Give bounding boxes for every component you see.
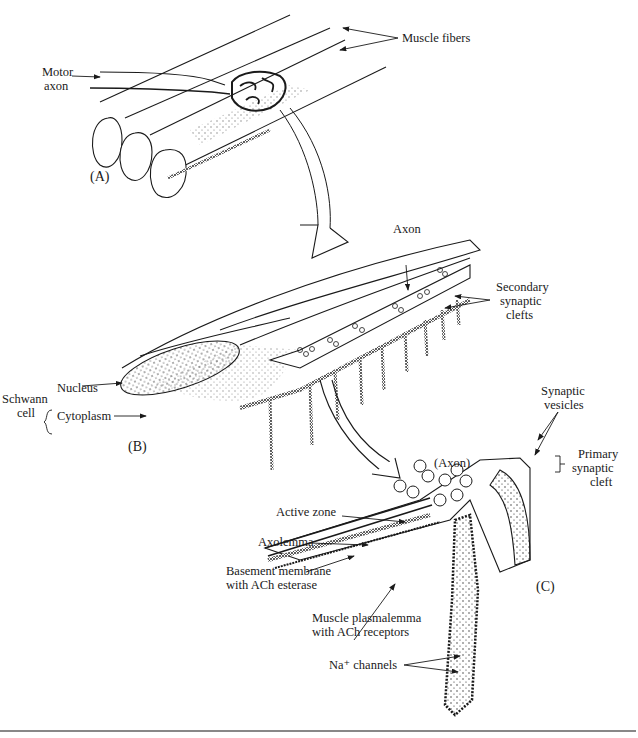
muscle-fibers-label: Muscle fibers [402, 31, 470, 45]
schwann-cell-label-line1: Schwann [2, 392, 48, 406]
secondary-clefts-label-line1: Secondary [496, 280, 549, 294]
muscle-plasmalemma-label-line1: Muscle plasmalemma [312, 611, 421, 625]
endplate-section-drawing [115, 240, 480, 478]
nucleus-label: Nucleus [57, 381, 98, 395]
panel-c-label: (C) [536, 580, 555, 594]
secondary-clefts-label-line3: clefts [506, 308, 533, 322]
cytoplasm-label: Cytoplasm [57, 409, 111, 423]
motor-axon-label-line1: Motor [42, 65, 73, 79]
axolemma-label: Axolemma [258, 535, 314, 549]
basement-membrane-label-line1: Basement membrane [226, 564, 331, 578]
motor-axon-label-line2: axon [44, 79, 68, 93]
caption-divider [0, 730, 636, 732]
axon-label-b: Axon [393, 222, 421, 236]
panel-b-label: (B) [128, 440, 147, 454]
synaptic-vesicles-label-line1: Synaptic [541, 384, 585, 398]
primary-cleft-label-line1: Primary [578, 447, 618, 461]
axon-label-c: (Axon) [434, 456, 470, 470]
schwann-cell-label-line2: cell [17, 406, 35, 420]
muscle-fibers-drawing [90, 15, 386, 258]
muscle-plasmalemma-label-line2: with ACh receptors [312, 625, 409, 639]
active-zone-label: Active zone [276, 505, 336, 519]
primary-cleft-label-line3: cleft [590, 475, 612, 489]
primary-cleft-label-line2: synaptic [572, 461, 614, 475]
panel-a-label: (A) [90, 170, 109, 184]
na-channels-label: Na⁺ channels [329, 658, 397, 672]
synaptic-vesicles-label-line2: vesicles [544, 398, 584, 412]
basement-membrane-label-line2: with ACh esterase [226, 578, 317, 592]
secondary-clefts-label-line2: synaptic [500, 294, 542, 308]
